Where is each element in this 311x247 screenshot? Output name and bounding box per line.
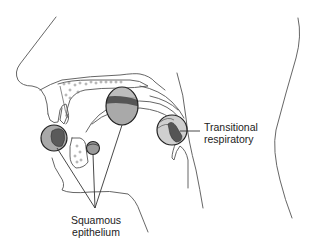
label-line-2: epithelium [66, 226, 126, 238]
neck-posterior-outline [275, 18, 300, 218]
squamous-epithelium-label: Squamous epithelium [66, 214, 126, 238]
face-profile-outline [16, 17, 56, 114]
nasal-vestibule-circle [41, 125, 67, 151]
epiglottis-outline [172, 142, 188, 188]
mandible-stipple [74, 145, 82, 163]
label-line-1: Squamous [66, 214, 126, 226]
larynx-circle [157, 115, 187, 145]
transitional-respiratory-label: Transitional respiratory [204, 121, 258, 145]
oropharynx-circle [104, 85, 140, 125]
label-line-2: respiratory [204, 133, 258, 145]
oral-region-circle [87, 142, 100, 155]
pharynx-inner-outline [150, 96, 178, 110]
head-sagittal-section [0, 0, 311, 247]
label-line-1: Transitional [204, 121, 258, 133]
mandible-outline [70, 138, 88, 168]
